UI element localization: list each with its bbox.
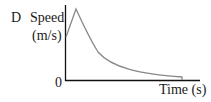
speed-curve: [66, 9, 182, 80]
speed-time-graph: [0, 0, 211, 102]
